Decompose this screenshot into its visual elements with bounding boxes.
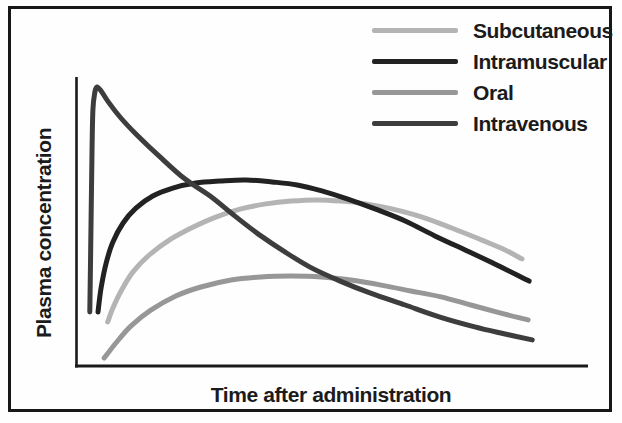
figure: Plasma concentration Time after administ… bbox=[0, 0, 622, 423]
legend-swatch-intramuscular bbox=[372, 59, 458, 64]
legend-item-oral: Oral bbox=[372, 77, 613, 108]
legend: Subcutaneous Intramuscular Oral Intraven… bbox=[372, 15, 613, 139]
legend-label-intramuscular: Intramuscular bbox=[473, 50, 607, 74]
curve-oral bbox=[104, 276, 528, 358]
legend-swatch-intravenous bbox=[372, 121, 458, 126]
legend-label-intravenous: Intravenous bbox=[473, 112, 588, 136]
legend-swatch-subcutaneous bbox=[372, 28, 458, 33]
legend-item-subcutaneous: Subcutaneous bbox=[372, 15, 613, 46]
legend-swatch-oral bbox=[372, 90, 458, 95]
x-axis-label: Time after administration bbox=[211, 383, 452, 407]
legend-item-intramuscular: Intramuscular bbox=[372, 46, 613, 77]
legend-item-intravenous: Intravenous bbox=[372, 108, 613, 139]
legend-label-subcutaneous: Subcutaneous bbox=[473, 19, 613, 43]
legend-label-oral: Oral bbox=[473, 81, 513, 105]
y-axis-label: Plasma concentration bbox=[32, 128, 56, 338]
